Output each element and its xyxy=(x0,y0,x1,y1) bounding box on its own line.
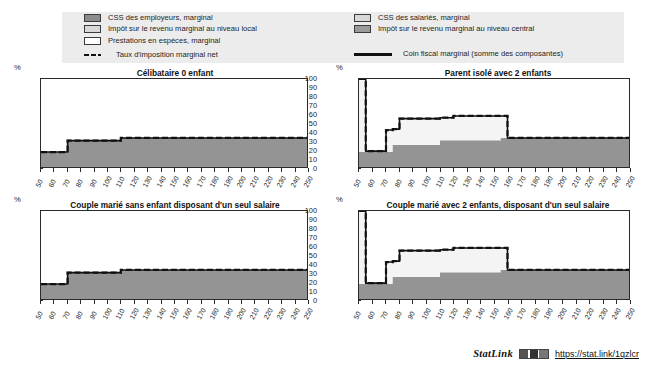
light-gray-swatch-icon xyxy=(354,14,371,22)
x-axis-tick-label: 200 xyxy=(556,307,568,321)
x-axis-tick-label: 60 xyxy=(366,310,376,320)
x-axis-tick-label: 160 xyxy=(182,307,194,321)
plot-frame xyxy=(40,78,308,168)
x-axis-labels: 5060708090100110120130140150160170180190… xyxy=(40,171,308,197)
x-axis-tick-label: 120 xyxy=(128,175,140,189)
x-axis-tick-label: 150 xyxy=(168,307,180,321)
legend-item-label: Coin fiscal marginal (somme des composan… xyxy=(399,50,563,58)
x-axis-tick-label: 110 xyxy=(434,175,446,188)
x-axis-tick-label: 140 xyxy=(475,175,487,189)
x-axis-tick-label: 200 xyxy=(556,175,568,189)
plot-area xyxy=(40,78,308,168)
chart-title: Couple marié avec 2 enfants, disposant d… xyxy=(358,200,638,210)
x-axis-tick-label: 100 xyxy=(420,307,432,321)
solid-line-icon xyxy=(354,50,392,58)
legend-item-taux-imposition-net: Taux d'imposition marginal net xyxy=(84,49,257,61)
mid-gray-swatch-icon xyxy=(354,25,371,33)
y-axis-tick-label: 30 xyxy=(309,138,317,145)
x-axis-tick-label: 70 xyxy=(61,178,71,188)
statlink-url[interactable]: https://stat.link/1qzlcr xyxy=(555,349,639,359)
y-axis-tick-label: 40 xyxy=(309,129,317,136)
x-axis-tick-label: 100 xyxy=(101,175,113,189)
x-axis-tick-label: 180 xyxy=(529,307,541,321)
x-axis-tick-label: 80 xyxy=(74,178,84,188)
y-axis-tick-label: 10 xyxy=(309,288,317,295)
x-axis-tick-label: 50 xyxy=(34,178,44,188)
x-axis-tick-label: 230 xyxy=(597,175,609,189)
y-axis-unit: % xyxy=(14,195,21,204)
legend-item-label: CSS des salariés, marginal xyxy=(378,14,470,22)
legend-item-impot-central: Impôt sur le revenu marginal au niveau c… xyxy=(354,24,563,36)
x-axis-tick-label: 250 xyxy=(624,307,636,321)
y-axis-tick-label: 70 xyxy=(309,234,317,241)
x-axis-tick-label: 90 xyxy=(88,178,98,188)
x-axis-tick-label: 240 xyxy=(289,307,301,321)
x-axis-tick-label: 240 xyxy=(611,175,623,189)
x-axis-tick-label: 160 xyxy=(502,175,514,189)
plot-area xyxy=(40,210,308,300)
x-axis-tick xyxy=(630,168,631,172)
y-axis-unit: % xyxy=(14,63,21,72)
x-axis-tick-label: 180 xyxy=(208,175,220,189)
y-axis-tick-label: 80 xyxy=(309,225,317,232)
y-axis-tick-label: 60 xyxy=(309,111,317,118)
chart-title: Célibataire 0 enfant xyxy=(40,68,310,78)
plot-frame xyxy=(358,78,630,168)
y-axis-tick-label: 90 xyxy=(309,84,317,91)
x-axis-tick-label: 170 xyxy=(195,175,207,189)
x-axis-tick xyxy=(308,168,309,172)
x-axis-tick-label: 160 xyxy=(502,307,514,321)
statlink-wordmark: StatLink xyxy=(473,348,513,359)
legend-item-coin-fiscal: Coin fiscal marginal (somme des composan… xyxy=(354,49,563,61)
y-axis-tick-label: 0 xyxy=(313,165,317,172)
x-axis-tick-label: 150 xyxy=(488,175,500,189)
plot-frame xyxy=(358,210,630,300)
y-axis-tick-label: 50 xyxy=(309,120,317,127)
y-axis-tick-label: 60 xyxy=(309,243,317,250)
x-axis-tick-label: 100 xyxy=(420,175,432,189)
x-axis-tick-label: 50 xyxy=(352,310,362,320)
legend-column-right: CSS des salariés, marginal Impôt sur le … xyxy=(354,12,563,60)
x-axis-tick-label: 170 xyxy=(195,307,207,321)
chart-title: Parent isolé avec 2 enfants xyxy=(358,68,638,78)
x-axis-tick-label: 250 xyxy=(302,307,314,321)
y-axis-unit: % xyxy=(336,63,343,72)
x-axis-tick-label: 60 xyxy=(48,178,58,188)
x-axis-tick-label: 70 xyxy=(379,310,389,320)
x-axis-tick-label: 130 xyxy=(141,175,153,189)
y-axis-tick-label: 100 xyxy=(305,75,317,82)
dashed-line-icon xyxy=(84,51,101,59)
x-axis-tick-label: 120 xyxy=(447,175,459,189)
x-axis-tick-label: 230 xyxy=(275,307,287,321)
legend-item-prestations: Prestations en espèces, marginal xyxy=(84,35,257,47)
x-axis-tick-label: 120 xyxy=(128,307,140,321)
x-axis-tick-label: 220 xyxy=(583,307,595,321)
x-axis-tick-label: 90 xyxy=(407,310,417,320)
x-axis-tick xyxy=(308,300,309,304)
statlink-barcode-icon xyxy=(519,349,549,359)
x-axis-tick-label: 190 xyxy=(543,175,555,189)
y-axis-tick-label: 90 xyxy=(309,216,317,223)
x-axis-tick-label: 100 xyxy=(101,307,113,321)
x-axis-tick-label: 140 xyxy=(155,307,167,321)
x-axis-tick-label: 250 xyxy=(624,175,636,189)
legend-item-css-employeurs: CSS des employeurs, marginal xyxy=(84,12,257,24)
x-axis-tick-label: 200 xyxy=(235,307,247,321)
statlink-footer: StatLink https://stat.link/1qzlcr xyxy=(0,348,639,359)
x-axis-tick-label: 120 xyxy=(447,307,459,321)
y-axis-tick-label: 20 xyxy=(309,279,317,286)
x-axis-tick-label: 220 xyxy=(262,175,274,189)
x-axis-tick-label: 230 xyxy=(597,307,609,321)
x-axis-tick-label: 170 xyxy=(515,175,527,189)
x-axis-tick-label: 130 xyxy=(461,307,473,321)
x-axis-tick-label: 220 xyxy=(583,175,595,189)
chart-svg xyxy=(359,211,629,299)
x-axis-tick-label: 150 xyxy=(168,175,180,189)
plot-area xyxy=(358,210,630,300)
legend-item-label: Taux d'imposition marginal net xyxy=(108,51,218,59)
legend-item-css-salaries: CSS des salariés, marginal xyxy=(354,12,563,24)
x-axis-tick-label: 230 xyxy=(275,175,287,189)
x-axis-tick-label: 250 xyxy=(302,175,314,189)
legend-item-impot-local: Impôt sur le revenu marginal au niveau l… xyxy=(84,24,257,36)
x-axis-tick-label: 190 xyxy=(222,307,234,321)
